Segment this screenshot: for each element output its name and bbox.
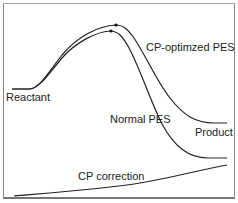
cp-optimized-pes-label: CP-optimzed PES <box>146 42 235 53</box>
reactant-label: Reactant <box>6 92 50 103</box>
normal-pes-label: Normal PES <box>110 114 171 125</box>
cp-optimized-ts-dot <box>114 23 117 26</box>
cp-correction-label: CP correction <box>78 171 144 182</box>
cp-optimized-pes-curve <box>12 25 227 123</box>
normal-ts-dot <box>109 29 112 32</box>
product-label: Product <box>195 127 233 138</box>
